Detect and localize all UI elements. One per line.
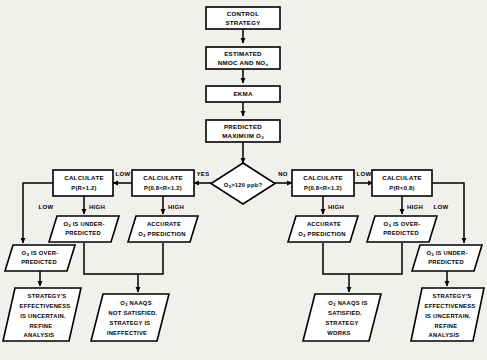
node-para-accurate-prediction-right[interactable]: ACCURATE O3 PREDICTION xyxy=(288,216,358,242)
calc-l2-line2: P(0.8<R<1.2) xyxy=(144,185,182,191)
out-naaqs-not-line2: NOT SATISFIED. xyxy=(109,310,158,316)
node-outcome-uncertain-left[interactable]: STRATEGY'S EFFECTIVENESS IS UNCERTAIN. R… xyxy=(3,288,81,341)
out-right-line1: STRATEGY'S xyxy=(433,293,472,299)
out-right-line2: EFFECTIVENESS xyxy=(425,303,476,309)
out-naaqs-yes-line2: SATISFIED. xyxy=(328,310,362,316)
connector-low-l1-to-far-left xyxy=(23,183,55,243)
out-left-line1: STRATEGY'S xyxy=(28,293,67,299)
edge-label-low-right-outer: LOW xyxy=(434,204,449,210)
node-para-o3-over-predicted-right[interactable]: O3 IS OVER- PREDICTED xyxy=(367,216,437,242)
calc-l2-line1: CALCULATE xyxy=(143,174,183,181)
edge-label-low-right-inner: LOW xyxy=(357,171,372,177)
out-naaqs-not-line3: STRATEGY IS xyxy=(110,320,151,326)
para-r-over-line2: PREDICTED xyxy=(383,230,419,236)
out-right-line5: ANALYSIS xyxy=(429,332,460,338)
node-outcome-uncertain-right[interactable]: STRATEGY'S EFFECTIVENESS IS UNCERTAIN. R… xyxy=(411,288,484,341)
connector-left-merge-bracket xyxy=(84,243,163,274)
edge-label-high-r2: HIGH xyxy=(407,204,423,210)
para-far-right-line2: PREDICTED xyxy=(428,259,464,265)
edge-label-high-l1: HIGH xyxy=(89,204,105,210)
node-predicted-maximum-o3[interactable]: PREDICTED MAXIMUM O3 xyxy=(206,120,280,142)
node-para-o3-over-predicted-far-left[interactable]: O3 IS OVER- PREDICTED xyxy=(5,245,75,271)
calc-l1-line2: P(R>1.2) xyxy=(71,185,96,191)
out-left-line4: REFINE xyxy=(30,323,53,329)
para-far-left-line2: PREDICTED xyxy=(21,259,57,265)
connector-right-merge-bracket xyxy=(323,243,402,274)
node-ekma[interactable]: EKMA xyxy=(206,86,280,102)
flowchart-svg: CONTROL STRATEGY ESTIMATED NMOC AND NOx … xyxy=(0,0,487,360)
predicted-line2: MAXIMUM O3 xyxy=(222,132,264,140)
edge-label-low-left-outer: LOW xyxy=(39,204,54,210)
control-strategy-line1: CONTROL xyxy=(227,10,259,17)
node-calculate-p-mid-left[interactable]: CALCULATE P(0.8<R<1.2) xyxy=(132,170,194,196)
predicted-line1: PREDICTED xyxy=(224,123,262,130)
calc-r1-line2: P(0.8<R<1.2) xyxy=(304,185,342,191)
node-outcome-naaqs-satisfied[interactable]: O3 NAAQS IS SATISFIED. STRATEGY WORKS xyxy=(303,294,381,341)
edge-label-low-left-inner: LOW xyxy=(116,171,131,177)
node-decision-o3-threshold[interactable]: O3>120 ppb? xyxy=(211,163,275,204)
node-para-o3-under-predicted-far-right[interactable]: O3 IS UNDER- PREDICTED xyxy=(412,245,482,271)
edge-label-no: NO xyxy=(278,171,288,177)
node-outcome-naaqs-not-satisfied[interactable]: O3 NAAQS NOT SATISFIED. STRATEGY IS INEF… xyxy=(91,294,169,341)
out-left-line2: EFFECTIVENESS xyxy=(20,303,71,309)
calc-l1-line1: CALCULATE xyxy=(64,174,104,181)
edge-label-yes: YES xyxy=(197,171,210,177)
node-para-o3-under-predicted-left[interactable]: O3 IS UNDER- PREDICTED xyxy=(49,216,119,242)
out-left-line3: IS UNCERTAIN. xyxy=(20,313,66,319)
calc-r1-line1: CALCULATE xyxy=(303,174,343,181)
calc-r2-line1: CALCULATE xyxy=(382,174,422,181)
para-l-accurate-line1: ACCURATE xyxy=(147,221,181,227)
para-l-under-line2: PREDICTED xyxy=(65,230,101,236)
connector-low-r2-to-far-right xyxy=(431,183,464,243)
out-naaqs-yes-line4: WORKS xyxy=(327,330,350,336)
control-strategy-line2: STRATEGY xyxy=(225,19,261,26)
calc-r2-line2: P(R<0.8) xyxy=(389,185,414,191)
out-right-line4: REFINE xyxy=(435,323,458,329)
edge-label-high-l2: HIGH xyxy=(168,204,184,210)
edge-label-high-r1: HIGH xyxy=(328,204,344,210)
out-left-line5: ANALYSIS xyxy=(24,332,55,338)
out-naaqs-yes-line3: STRATEGY xyxy=(325,320,358,326)
node-estimated-nmoc-nox[interactable]: ESTIMATED NMOC AND NOx xyxy=(206,47,280,69)
para-r-accurate-line1: ACCURATE xyxy=(307,221,341,227)
out-right-line3: IS UNCERTAIN. xyxy=(425,313,471,319)
estimated-line2: NMOC AND NOx xyxy=(218,59,269,67)
estimated-line1: ESTIMATED xyxy=(224,50,262,57)
node-calculate-p-mid-right[interactable]: CALCULATE P(0.8<R<1.2) xyxy=(292,170,354,196)
ekma-label: EKMA xyxy=(233,90,252,97)
node-para-accurate-prediction-left[interactable]: ACCURATE O3 PREDICTION xyxy=(128,216,198,242)
node-calculate-p-r-gt-1-2[interactable]: CALCULATE P(R>1.2) xyxy=(53,170,113,196)
node-control-strategy[interactable]: CONTROL STRATEGY xyxy=(206,7,280,29)
node-calculate-p-r-lt-0-8[interactable]: CALCULATE P(R<0.8) xyxy=(372,170,432,196)
out-naaqs-not-line4: INEFFECTIVE xyxy=(107,330,147,336)
flowchart-canvas: CONTROL STRATEGY ESTIMATED NMOC AND NOx … xyxy=(0,0,487,360)
